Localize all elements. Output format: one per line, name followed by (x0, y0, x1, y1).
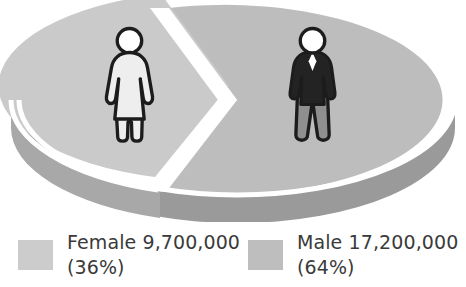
legend-label-female-line2: (36%) (67, 255, 240, 280)
legend-swatch-female (18, 240, 53, 270)
legend-swatch-male (248, 240, 283, 270)
legend-label-male-line2: (64%) (297, 255, 458, 280)
legend-item-female: Female 9,700,000 (36%) (18, 230, 240, 280)
legend-label-male-line1: Male 17,200,000 (297, 231, 458, 253)
legend-label-female-line1: Female 9,700,000 (67, 231, 240, 253)
legend-label-male: Male 17,200,000 (64%) (297, 230, 458, 280)
legend-label-female: Female 9,700,000 (36%) (67, 230, 240, 280)
legend-item-male: Male 17,200,000 (64%) (248, 230, 458, 280)
pie-chart-figure: Female 9,700,000 (36%) Male 17,200,000 (… (0, 0, 466, 287)
pie-chart-graphic (0, 0, 466, 222)
chart-legend: Female 9,700,000 (36%) Male 17,200,000 (… (0, 230, 466, 287)
